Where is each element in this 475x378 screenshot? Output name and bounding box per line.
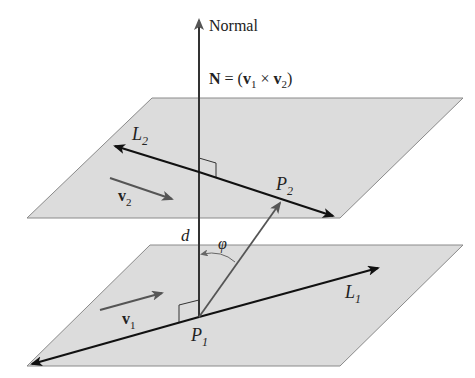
top-plane bbox=[27, 98, 463, 218]
label-phi: φ bbox=[218, 235, 227, 253]
normal-label: Normal bbox=[209, 17, 258, 34]
normal-formula: N = (v1 × v2) bbox=[209, 70, 292, 90]
skew-lines-distance-diagram: Normal N = (v1 × v2) L2 v2 P2 d φ L1 v1 … bbox=[0, 0, 475, 378]
label-d: d bbox=[181, 226, 190, 245]
